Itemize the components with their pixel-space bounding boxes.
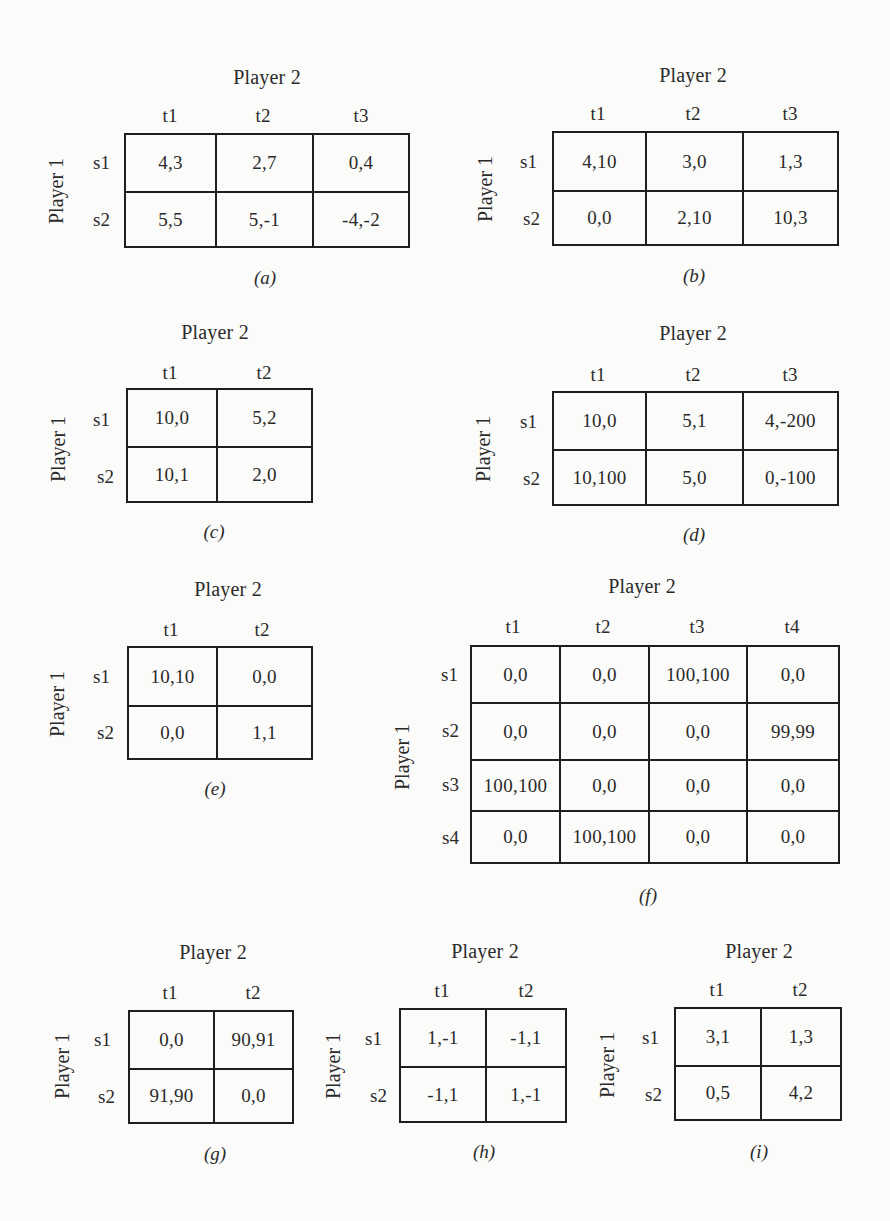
row-label: s1 xyxy=(93,409,110,431)
row-label: s2 xyxy=(97,466,114,488)
figure-caption: (a) xyxy=(254,267,276,289)
payoff-cell: 0,5 xyxy=(676,1067,762,1119)
payoff-cell: 0,0 xyxy=(650,761,748,812)
payoff-cell: 5,5 xyxy=(126,193,217,246)
payoff-cell: 0,0 xyxy=(561,704,650,761)
payoff-cell: 5,-1 xyxy=(217,193,314,246)
column-label: t2 xyxy=(256,105,271,127)
column-label: t1 xyxy=(435,980,450,1002)
figure-caption: (g) xyxy=(204,1143,226,1165)
payoff-cell: 0,0 xyxy=(561,647,650,704)
figure-caption: (h) xyxy=(473,1141,495,1163)
column-player-label: Player 2 xyxy=(725,940,793,963)
column-label: t1 xyxy=(163,105,178,127)
payoff-cell: 0,0 xyxy=(748,812,838,862)
row-label: s1 xyxy=(93,152,110,174)
payoff-cell: 10,0 xyxy=(554,393,647,451)
row-label: s4 xyxy=(442,827,459,849)
row-label: s2 xyxy=(98,1086,115,1108)
row-label: s2 xyxy=(97,722,114,744)
payoff-cell: 0,-100 xyxy=(744,451,837,504)
column-label: t2 xyxy=(686,103,701,125)
column-label: t3 xyxy=(690,616,705,638)
row-player-label: Player 1 xyxy=(47,416,70,482)
payoff-cell: 0,0 xyxy=(472,704,561,761)
column-label: t3 xyxy=(783,103,798,125)
row-player-label: Player 1 xyxy=(322,1033,345,1099)
payoff-grid: 10,0 5,1 4,-200 10,100 5,0 0,-100 xyxy=(552,391,839,506)
row-label: s2 xyxy=(442,720,459,742)
payoff-cell: 1,1 xyxy=(218,707,311,758)
payoff-grid: 10,10 0,0 0,0 1,1 xyxy=(127,646,313,760)
payoff-cell: 1,3 xyxy=(762,1009,840,1067)
payoff-cell: 0,0 xyxy=(130,1012,215,1070)
row-label: s1 xyxy=(365,1028,382,1050)
column-label: t1 xyxy=(164,619,179,641)
payoff-cell: 0,0 xyxy=(472,812,561,862)
column-player-label: Player 2 xyxy=(181,321,249,344)
payoff-cell: 99,99 xyxy=(748,704,838,761)
column-player-label: Player 2 xyxy=(451,940,519,963)
payoff-grid: 0,0 90,91 91,90 0,0 xyxy=(128,1010,294,1124)
payoff-cell: -1,1 xyxy=(401,1068,487,1121)
row-label: s2 xyxy=(523,468,540,490)
payoff-cell: 10,1 xyxy=(128,448,218,501)
row-label: s2 xyxy=(523,208,540,230)
payoff-cell: 5,2 xyxy=(218,390,311,448)
payoff-cell: 3,1 xyxy=(676,1009,762,1067)
column-player-label: Player 2 xyxy=(659,64,727,87)
payoff-grid: 4,3 2,7 0,4 5,5 5,-1 -4,-2 xyxy=(124,133,410,248)
payoff-cell: 2,0 xyxy=(218,448,311,501)
payoff-cell: 2,7 xyxy=(217,135,314,193)
column-player-label: Player 2 xyxy=(659,322,727,345)
column-label: t4 xyxy=(785,616,800,638)
payoff-cell: 10,10 xyxy=(129,648,218,707)
row-label: s1 xyxy=(441,664,458,686)
payoff-cell: 0,0 xyxy=(218,648,311,707)
figure-caption: (d) xyxy=(683,524,705,546)
row-player-label: Player 1 xyxy=(45,158,68,224)
payoff-grid: 1,-1 -1,1 -1,1 1,-1 xyxy=(399,1008,567,1123)
row-label: s2 xyxy=(93,209,110,231)
row-player-label: Player 1 xyxy=(51,1033,74,1099)
payoff-cell: 91,90 xyxy=(130,1070,215,1122)
payoff-cell: 0,0 xyxy=(748,761,838,812)
row-label: s2 xyxy=(370,1085,387,1107)
row-label: s1 xyxy=(520,411,537,433)
column-label: t2 xyxy=(246,982,261,1004)
row-player-label: Player 1 xyxy=(46,671,69,737)
payoff-cell: 4,2 xyxy=(762,1067,840,1119)
column-label: t2 xyxy=(793,979,808,1001)
payoff-cell: -4,-2 xyxy=(314,193,408,246)
row-player-label: Player 1 xyxy=(391,724,414,790)
column-label: t3 xyxy=(783,364,798,386)
column-label: t2 xyxy=(519,980,534,1002)
column-player-label: Player 2 xyxy=(179,941,247,964)
payoff-grid: 0,0 0,0 100,100 0,0 0,0 0,0 0,0 99,99 10… xyxy=(470,645,840,864)
payoff-cell: 10,0 xyxy=(128,390,218,448)
payoff-cell: 0,0 xyxy=(561,761,650,812)
payoff-grid: 3,1 1,3 0,5 4,2 xyxy=(674,1007,842,1121)
payoff-cell: 0,0 xyxy=(748,647,838,704)
row-player-label: Player 1 xyxy=(596,1032,619,1098)
column-label: t1 xyxy=(163,362,178,384)
payoff-cell: 0,0 xyxy=(472,647,561,704)
column-player-label: Player 2 xyxy=(233,66,301,89)
payoff-cell: 0,0 xyxy=(215,1070,292,1122)
figure-caption: (c) xyxy=(203,521,224,543)
column-label: t1 xyxy=(591,103,606,125)
payoff-grid: 10,0 5,2 10,1 2,0 xyxy=(126,388,313,503)
payoff-grid: 4,10 3,0 1,3 0,0 2,10 10,3 xyxy=(552,131,839,246)
payoff-cell: 5,0 xyxy=(647,451,744,504)
payoff-cell: 100,100 xyxy=(472,761,561,812)
payoff-cell: 0,0 xyxy=(554,192,647,244)
payoff-cell: 10,3 xyxy=(744,192,837,244)
column-label: t1 xyxy=(163,982,178,1004)
payoff-cell: -1,1 xyxy=(487,1010,565,1068)
row-player-label: Player 1 xyxy=(472,416,495,482)
column-label: t1 xyxy=(710,979,725,1001)
payoff-cell: 100,100 xyxy=(561,812,650,862)
payoff-cell: 1,-1 xyxy=(401,1010,487,1068)
row-label: s1 xyxy=(520,151,537,173)
payoff-cell: 0,0 xyxy=(650,812,748,862)
